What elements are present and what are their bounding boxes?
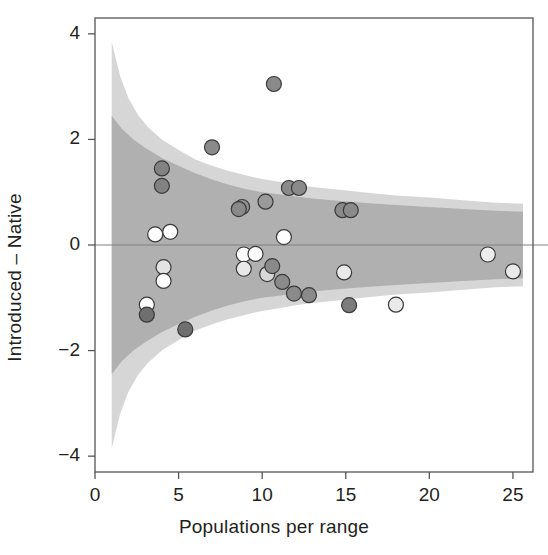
x-tick-label: 20 (399, 484, 459, 506)
x-tick-label: 10 (232, 484, 292, 506)
plot-canvas (0, 0, 548, 555)
scatter-plot-figure: Introduced – Native Populations per rang… (0, 0, 548, 555)
data-point (275, 274, 290, 289)
data-point (291, 180, 306, 195)
data-point (505, 264, 520, 279)
data-point (236, 261, 251, 276)
data-point (480, 247, 495, 262)
data-point (156, 260, 171, 275)
y-tick-label: 2 (20, 127, 80, 149)
data-point (205, 140, 220, 155)
data-point (266, 76, 281, 91)
y-tick-label: −4 (20, 444, 80, 466)
data-point (276, 230, 291, 245)
y-tick-label: 4 (20, 22, 80, 44)
data-point (148, 227, 163, 242)
data-point (163, 224, 178, 239)
data-point (343, 203, 358, 218)
y-tick-label: −2 (20, 339, 80, 361)
x-tick-label: 15 (316, 484, 376, 506)
data-point (286, 286, 301, 301)
data-point (154, 178, 169, 193)
data-point (231, 202, 246, 217)
x-axis-title: Populations per range (0, 516, 548, 538)
data-point (156, 273, 171, 288)
data-point (248, 246, 263, 261)
data-point (154, 161, 169, 176)
data-point (265, 259, 280, 274)
data-point (388, 297, 403, 312)
data-point (342, 298, 357, 313)
x-tick-label: 5 (149, 484, 209, 506)
x-tick-label: 25 (483, 484, 543, 506)
data-point (301, 288, 316, 303)
data-point (139, 307, 154, 322)
y-tick-label: 0 (20, 233, 80, 255)
x-tick-label: 0 (65, 484, 125, 506)
data-point (178, 322, 193, 337)
data-point (337, 265, 352, 280)
data-point (258, 194, 273, 209)
y-axis-title: Introduced – Native (0, 0, 30, 555)
